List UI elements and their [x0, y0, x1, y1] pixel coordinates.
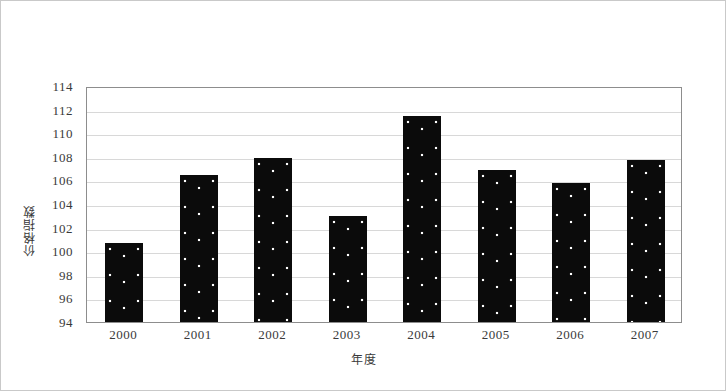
y-tick-label: 102 [52, 221, 73, 237]
x-tick-label: 2007 [631, 327, 659, 343]
y-tick-label: 98 [59, 268, 73, 284]
y-tick-label: 114 [52, 79, 73, 95]
x-tick-label: 2002 [258, 327, 286, 343]
x-tick-label: 2003 [333, 327, 361, 343]
y-tick-label: 106 [52, 173, 73, 189]
x-tick-label: 2005 [482, 327, 510, 343]
bar [254, 158, 292, 322]
y-tick-label: 104 [52, 197, 73, 213]
bar [105, 243, 143, 322]
bar [552, 183, 590, 322]
bar-series [87, 88, 681, 322]
bar [329, 216, 367, 322]
y-tick-label: 112 [52, 103, 73, 119]
x-tick-label: 2000 [109, 327, 137, 343]
y-tick-label: 110 [52, 126, 73, 142]
x-axis-tick-labels: 20002001200220032004200520062007 [86, 327, 682, 349]
bar [478, 170, 516, 322]
y-axis-tick-labels: 114112110108106104102100989694 [1, 87, 81, 323]
x-tick-label: 2004 [407, 327, 435, 343]
y-tick-label: 100 [52, 244, 73, 260]
x-tick-label: 2006 [556, 327, 584, 343]
x-axis-title: 年度 [1, 350, 726, 367]
x-tick-label: 2001 [184, 327, 212, 343]
y-tick-label: 108 [52, 150, 73, 166]
plot-area [86, 87, 682, 323]
bar [180, 175, 218, 323]
y-tick-label: 96 [59, 291, 73, 307]
y-tick-label: 94 [59, 315, 73, 331]
bar [627, 160, 665, 322]
chart-figure: 价格指数 114112110108106104102100989694 2000… [0, 0, 726, 391]
bar [403, 116, 441, 323]
